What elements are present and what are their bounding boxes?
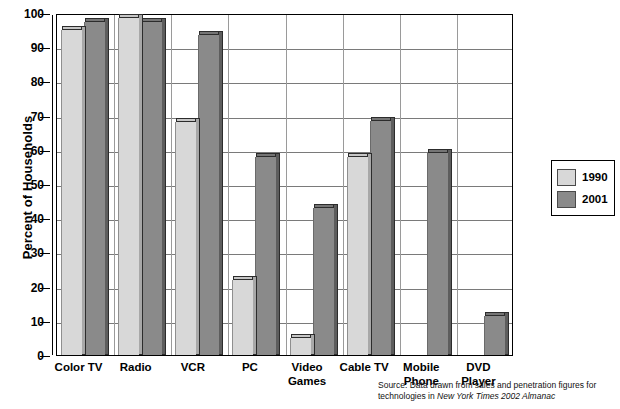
legend-label-1990: 1990 [582, 171, 608, 183]
legend-item-2001: 2001 [557, 188, 608, 210]
legend-swatch-1990-icon [557, 169, 576, 186]
x-label-line: DVD [450, 360, 507, 374]
y-tick-mark [40, 219, 50, 220]
bar-top-face [371, 117, 391, 121]
bar-1990-cable-tv [347, 157, 369, 355]
y-tick-mark [40, 117, 50, 118]
bar-2001-dvd-player [484, 316, 506, 355]
x-label-video-games: VideoGames [279, 360, 336, 388]
x-label-line: VCR [164, 360, 221, 374]
source-note: Source: Data drawn from sales and penetr… [378, 380, 618, 402]
bar-chart: Percent of Households 010203040506070809… [0, 0, 620, 409]
x-label-cable-tv: Cable TV [336, 360, 393, 374]
bar-top-face [233, 276, 253, 280]
bar-side-face [139, 14, 143, 355]
bar-top-face [62, 26, 82, 30]
x-label-color-tv: Color TV [50, 360, 107, 374]
bar-2001-video-games [313, 208, 335, 355]
y-tick-mark [40, 322, 50, 323]
x-label-line: Color TV [50, 360, 107, 374]
y-tick-mark [40, 253, 50, 254]
x-label-line: Video [279, 360, 336, 374]
y-tick-mark [40, 185, 50, 186]
legend: 1990 2001 [551, 160, 615, 216]
bar-top-face [256, 153, 276, 157]
x-label-vcr: VCR [164, 360, 221, 374]
bar-1990-color-tv [61, 30, 83, 355]
y-tick-mark [40, 48, 50, 49]
bar-side-face [311, 334, 315, 355]
legend-item-1990: 1990 [557, 166, 608, 188]
bar-top-face [291, 334, 311, 338]
bar-1990-video-games [290, 338, 312, 355]
bar-2001-pc [255, 157, 277, 355]
x-label-line: Cable TV [336, 360, 393, 374]
legend-label-2001: 2001 [582, 193, 608, 205]
bar-side-face [162, 18, 166, 355]
bar-top-face [428, 149, 448, 153]
x-label-line: Games [279, 374, 336, 388]
bar-side-face [105, 18, 109, 355]
legend-swatch-2001-icon [557, 191, 576, 208]
bar-2001-color-tv [84, 22, 106, 355]
x-label-line: Mobile [393, 360, 450, 374]
y-tick-mark [40, 288, 50, 289]
bar-1990-vcr [175, 122, 197, 355]
y-tick-mark [40, 14, 50, 15]
x-label-line: PC [221, 360, 278, 374]
y-axis-tick-labels: 0102030405060708090100 [10, 14, 44, 356]
bar-2001-radio [141, 22, 163, 355]
bar-side-face [253, 276, 257, 355]
bar-side-face [219, 31, 223, 355]
bar-top-face [314, 204, 334, 208]
bar-2001-cable-tv [370, 121, 392, 355]
y-tick-mark [40, 82, 50, 83]
bar-side-face [391, 117, 395, 355]
y-tick-mark [40, 151, 50, 152]
plot-wrap [56, 14, 513, 356]
bar-1990-radio [118, 18, 140, 355]
bar-top-face [199, 31, 219, 35]
x-label-radio: Radio [107, 360, 164, 374]
plot-area [56, 14, 513, 356]
x-label-pc: PC [221, 360, 278, 374]
bar-2001-vcr [198, 35, 220, 355]
bar-2001-mobile-phone [427, 153, 449, 355]
bar-top-face [85, 18, 105, 22]
source-note-citation: New York Times 2002 Almanac [437, 391, 555, 401]
bar-top-face [176, 118, 196, 122]
y-tick-mark [40, 356, 50, 357]
y-axis-inner-line [52, 15, 53, 355]
bar-side-face [505, 312, 509, 355]
bars-layer [57, 15, 512, 355]
bar-side-face [82, 26, 86, 355]
x-label-line: Radio [107, 360, 164, 374]
bar-top-face [119, 14, 139, 18]
bar-top-face [485, 312, 505, 316]
bar-side-face [368, 153, 372, 355]
bar-side-face [276, 153, 280, 355]
bar-side-face [196, 118, 200, 355]
bar-side-face [334, 204, 338, 355]
bar-top-face [348, 153, 368, 157]
bar-top-face [142, 18, 162, 22]
bar-1990-pc [232, 280, 254, 355]
bar-side-face [448, 149, 452, 355]
